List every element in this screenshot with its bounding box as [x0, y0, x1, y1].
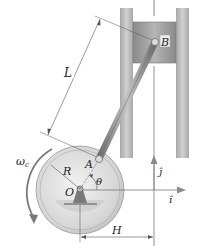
omega-arrowhead: [29, 214, 38, 224]
cylinder-right-wall: [176, 8, 189, 158]
j-hat-arrowhead: [151, 155, 158, 164]
L-arrow-bottom: [48, 129, 52, 136]
label-j-hat: ĵ: [157, 166, 163, 177]
label-A: A: [84, 158, 93, 171]
label-omega-subscript: c: [25, 161, 29, 169]
label-L: L: [63, 66, 72, 80]
L-arrow-top: [97, 19, 101, 26]
label-omega: ωc: [16, 155, 29, 169]
H-arrow-right: [148, 235, 153, 239]
label-R: R: [62, 165, 71, 178]
slider-crank-diagram: B L A R O θ ωc H ĵ î: [0, 0, 198, 251]
label-i-hat: î: [169, 194, 173, 205]
cylinder-left-wall: [120, 8, 133, 158]
label-O: O: [65, 186, 74, 199]
i-hat-arrowhead: [177, 187, 186, 194]
label-theta: θ: [96, 176, 102, 187]
H-arrow-left: [81, 235, 86, 239]
label-B: B: [160, 36, 169, 49]
pin-B: [152, 39, 159, 46]
label-H: H: [111, 224, 122, 237]
